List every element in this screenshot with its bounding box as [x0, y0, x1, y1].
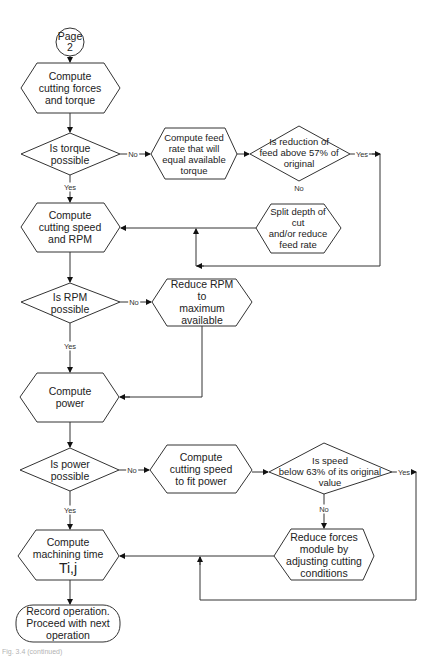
node-compute-feed-rate: Compute feed rate that will equal availa… [162, 132, 225, 176]
node-text: cutting speed [170, 463, 232, 475]
edge-label-torque-yes: Yes [63, 183, 77, 192]
edge-label-torque-no: No [127, 150, 139, 159]
node-reduce-forces: Reduce forces module by adjusting cuttin… [286, 531, 362, 579]
node-text: rate that will [162, 143, 225, 154]
node-text: torque [162, 165, 225, 176]
node-text: conditions [286, 567, 362, 579]
edge-label-rpm-no: No [128, 298, 140, 307]
edge-label-reduction-no: No [293, 184, 305, 193]
edge-label-speed-yes: Yes [397, 468, 411, 477]
node-text: feed rate [269, 239, 328, 250]
node-text: cut [269, 217, 328, 228]
node-text: Is speed [279, 455, 381, 466]
node-compute-forces: Compute cutting forces and torque [39, 70, 101, 106]
node-text: Is RPM [51, 291, 90, 303]
node-text: equal available [162, 154, 225, 165]
node-text: Is reduction of [259, 136, 338, 147]
node-text: Compute [39, 209, 101, 221]
node-text: available [171, 314, 233, 326]
node-text: possible [51, 303, 90, 315]
page-connector: Page 2 [58, 31, 83, 53]
node-text: feed above 57% of [259, 147, 338, 158]
node-text: cutting forces [39, 82, 101, 94]
edge-label-power-no: No [126, 466, 138, 475]
edge-label-speed-no: No [318, 505, 330, 514]
node-text: cutting speed [39, 221, 101, 233]
node-is-power-possible: Is power possible [50, 458, 90, 482]
node-text: operation [26, 629, 109, 641]
node-text: and torque [39, 94, 101, 106]
node-text: below 63% of its original [279, 466, 381, 477]
node-text: to fit power [170, 475, 232, 487]
node-text: module by [286, 543, 362, 555]
node-text: and/or reduce [269, 228, 328, 239]
node-text: Compute [49, 385, 92, 397]
node-text: and RPM [39, 233, 101, 245]
node-text: adjusting cutting [286, 555, 362, 567]
node-compute-power: Compute power [49, 385, 92, 409]
node-text: Reduce forces [286, 531, 362, 543]
node-text: Is torque [50, 142, 91, 154]
edge-label-rpm-yes: Yes [63, 342, 77, 351]
node-is-rpm-possible: Is RPM possible [51, 291, 90, 315]
edge-label-reduction-yes: Yes [355, 150, 369, 159]
figure-caption: Fig. 3.4 (continued) [2, 648, 62, 655]
node-text: Ti,j [33, 560, 104, 576]
node-text: value [279, 477, 381, 488]
node-text: maximum [171, 302, 233, 314]
node-reduce-rpm: Reduce RPM to maximum available [171, 278, 233, 326]
edge-label-power-yes: Yes [63, 506, 77, 515]
node-is-reduction-feed: Is reduction of feed above 57% of origin… [259, 136, 338, 169]
node-split-depth: Split depth of cut and/or reduce feed ra… [269, 206, 328, 250]
node-text: Compute feed [162, 132, 225, 143]
node-text: Reduce RPM [171, 278, 233, 290]
node-compute-speed-rpm: Compute cutting speed and RPM [39, 209, 101, 245]
node-text: Compute [39, 70, 101, 82]
node-text: Record operation. [26, 605, 109, 617]
node-text: possible [50, 470, 90, 482]
node-text: Compute [170, 451, 232, 463]
node-text: to [171, 290, 233, 302]
node-text: original [259, 158, 338, 169]
node-text: Compute [33, 536, 104, 548]
node-text: power [49, 397, 92, 409]
node-compute-machining-time: Compute machining time Ti,j [33, 536, 104, 576]
node-is-speed-below: Is speed below 63% of its original value [279, 455, 381, 488]
node-record-operation: Record operation. Proceed with next oper… [26, 605, 109, 641]
node-text: possible [50, 154, 91, 166]
page-connector-line2: 2 [58, 42, 83, 53]
node-text: Split depth of [269, 206, 328, 217]
node-text: machining time [33, 548, 104, 560]
node-text: Is power [50, 458, 90, 470]
node-is-torque-possible: Is torque possible [50, 142, 91, 166]
node-text: Proceed with next [26, 617, 109, 629]
node-compute-speed-fit-power: Compute cutting speed to fit power [170, 451, 232, 487]
